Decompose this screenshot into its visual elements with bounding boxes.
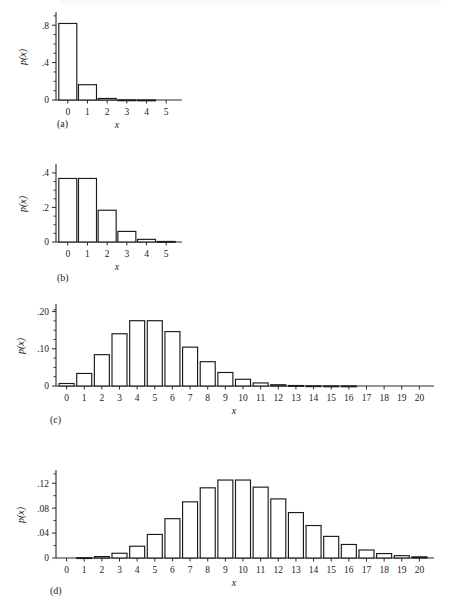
- x-tick-label: 8: [205, 393, 210, 403]
- x-tick-label: 18: [379, 393, 389, 403]
- x-tick-label: 7: [188, 393, 193, 403]
- bar: [271, 385, 286, 386]
- bar: [78, 178, 96, 242]
- bar: [147, 321, 162, 386]
- x-tick-label: 5: [164, 249, 169, 259]
- x-tick-label: 5: [152, 393, 157, 403]
- y-tick-label: 0: [44, 95, 49, 105]
- bar: [218, 372, 233, 386]
- bar: [394, 556, 409, 558]
- x-tick-label: 11: [256, 565, 265, 575]
- x-tick-label: 2: [99, 393, 104, 403]
- x-tick-label: 13: [291, 393, 301, 403]
- panel-c: 0.10.2001234567891011121314151617181920x…: [10, 300, 452, 422]
- x-tick-label: 12: [274, 393, 284, 403]
- x-tick-label: 3: [117, 393, 122, 403]
- bar: [59, 23, 77, 100]
- y-axis-label: p(x): [15, 506, 27, 524]
- bar: [359, 550, 374, 558]
- x-tick-label: 15: [326, 393, 336, 403]
- bar: [94, 355, 109, 386]
- x-tick-label: 15: [326, 565, 336, 575]
- bar: [341, 544, 356, 558]
- x-tick-label: 19: [397, 565, 407, 575]
- x-axis-label: x: [231, 405, 237, 416]
- bar: [306, 526, 321, 558]
- y-axis-label: p(x): [17, 48, 29, 66]
- x-tick-label: 17: [362, 393, 372, 403]
- x-tick-label: 16: [344, 565, 354, 575]
- x-tick-label: 14: [309, 565, 319, 575]
- x-tick-label: 8: [205, 565, 210, 575]
- panel-d-caption: (d): [50, 585, 62, 596]
- y-tick-label: .08: [37, 504, 49, 514]
- x-tick-label: 14: [309, 393, 319, 403]
- x-tick-label: 1: [85, 107, 90, 117]
- y-tick-label: .20: [37, 307, 49, 317]
- bar: [165, 519, 180, 558]
- x-tick-label: 19: [397, 393, 407, 403]
- x-tick-label: 4: [144, 107, 149, 117]
- panel-c-plot: 0.10.2001234567891011121314151617181920x…: [10, 300, 452, 422]
- y-tick-label: .8: [42, 21, 49, 31]
- bar: [138, 239, 156, 242]
- x-tick-label: 6: [170, 393, 175, 403]
- panel-d-plot: 0.04.08.12012345678910111213141516171819…: [10, 466, 452, 594]
- panel-c-caption: (c): [50, 414, 61, 425]
- y-tick-label: .10: [37, 344, 49, 354]
- x-tick-label: 1: [85, 249, 90, 259]
- y-tick-label: 0: [44, 237, 49, 247]
- x-tick-label: 17: [362, 565, 372, 575]
- bar: [78, 85, 96, 100]
- bar: [324, 536, 339, 558]
- panel-b: 0.2.4012345xp(x): [10, 160, 240, 278]
- bar: [165, 332, 180, 386]
- x-axis-label: x: [114, 261, 120, 272]
- bar: [59, 178, 77, 242]
- y-tick-label: .04: [37, 528, 49, 538]
- panel-b-caption: (b): [57, 272, 69, 283]
- panel-a-plot: 0.4.8012345xp(x): [10, 8, 240, 140]
- panel-b-plot: 0.2.4012345xp(x): [10, 160, 240, 278]
- bar: [118, 231, 136, 242]
- x-tick-label: 4: [135, 393, 140, 403]
- x-tick-label: 9: [223, 393, 228, 403]
- bar: [94, 557, 109, 558]
- page-bleed-artifact: [60, 0, 440, 5]
- x-tick-label: 11: [256, 393, 265, 403]
- bar: [236, 379, 251, 386]
- x-tick-label: 4: [135, 565, 140, 575]
- y-tick-label: .2: [42, 203, 49, 213]
- bar: [236, 480, 251, 558]
- bar: [59, 384, 74, 386]
- x-tick-label: 2: [105, 107, 110, 117]
- bar: [218, 480, 233, 558]
- y-axis-label: p(x): [17, 195, 29, 213]
- x-tick-label: 2: [99, 565, 104, 575]
- panel-d: 0.04.08.12012345678910111213141516171819…: [10, 466, 452, 594]
- bar: [147, 534, 162, 558]
- x-tick-label: 20: [415, 565, 425, 575]
- x-tick-label: 1: [82, 393, 87, 403]
- bar: [130, 321, 145, 386]
- x-tick-label: 5: [152, 565, 157, 575]
- bar: [112, 553, 127, 558]
- x-tick-label: 10: [238, 393, 248, 403]
- x-tick-label: 2: [105, 249, 110, 259]
- x-tick-label: 1: [82, 565, 87, 575]
- bar: [288, 513, 303, 558]
- bar: [253, 487, 268, 558]
- bar: [253, 383, 268, 386]
- bar: [200, 362, 215, 386]
- bar: [77, 373, 92, 386]
- bar: [98, 98, 116, 100]
- x-tick-label: 0: [65, 107, 70, 117]
- x-tick-label: 3: [124, 249, 129, 259]
- x-tick-label: 0: [64, 565, 69, 575]
- y-axis-label: p(x): [15, 337, 27, 355]
- x-tick-label: 3: [117, 565, 122, 575]
- x-tick-label: 10: [238, 565, 248, 575]
- x-tick-label: 13: [291, 565, 301, 575]
- x-tick-label: 9: [223, 565, 228, 575]
- y-tick-label: .4: [42, 168, 49, 178]
